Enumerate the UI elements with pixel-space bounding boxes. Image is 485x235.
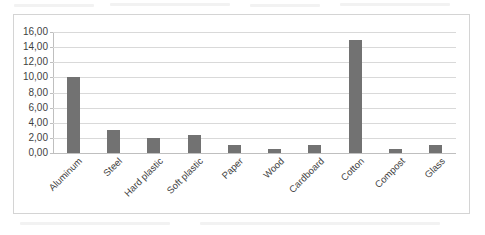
bleed-artifact (250, 4, 320, 7)
y-axis-tick-mark (50, 123, 53, 124)
y-axis-tick-mark (50, 47, 53, 48)
y-axis-tick-label: 12,00 (23, 57, 48, 67)
gridline (53, 62, 456, 63)
bar-chart-figure: 16,0014,0012,0010,008,006,004,002,000,00… (13, 14, 470, 214)
bar[interactable] (389, 149, 402, 153)
x-axis-category-label: Soft plastic (165, 156, 205, 196)
x-axis-category-label: Compost (373, 156, 407, 190)
x-axis-category-label: Hard plastic (122, 156, 164, 198)
x-axis-category-label: Aluminum (47, 156, 84, 193)
y-axis-tick-mark (50, 138, 53, 139)
bar[interactable] (268, 149, 281, 153)
y-axis-tick-label: 14,00 (23, 42, 48, 52)
bar[interactable] (107, 130, 120, 153)
bar[interactable] (188, 135, 201, 153)
bar[interactable] (228, 145, 241, 153)
y-axis-tick-label: 4,00 (29, 118, 48, 128)
y-axis-tick-label: 2,00 (29, 133, 48, 143)
x-axis-category-label: Wood (261, 156, 285, 180)
y-axis-tick-mark (50, 77, 53, 78)
gridline (53, 32, 456, 33)
bleed-artifact (200, 222, 440, 225)
y-axis-tick-label: 10,00 (23, 72, 48, 82)
bar[interactable] (308, 145, 321, 153)
bar[interactable] (429, 145, 442, 153)
gridline (53, 77, 456, 78)
gridline (53, 153, 456, 154)
bar[interactable] (349, 40, 362, 153)
bleed-artifact (340, 3, 450, 6)
x-axis-category-label: Paper (220, 156, 245, 181)
x-axis-category-label: Glass (423, 156, 447, 180)
y-axis-tick-mark (50, 32, 53, 33)
bleed-artifact (14, 4, 94, 7)
bar[interactable] (147, 138, 160, 153)
gridline (53, 108, 456, 109)
y-axis-tick-label: 6,00 (29, 103, 48, 113)
plot-area: 16,0014,0012,0010,008,006,004,002,000,00… (53, 32, 456, 153)
y-axis-tick-mark (50, 153, 53, 154)
gridline (53, 123, 456, 124)
x-axis-category-label: Steel (102, 156, 124, 178)
bar[interactable] (67, 77, 80, 153)
gridline (53, 93, 456, 94)
bleed-artifact (20, 222, 170, 225)
y-axis-tick-mark (50, 62, 53, 63)
y-axis-tick-label: 0,00 (29, 148, 48, 158)
y-axis-tick-label: 8,00 (29, 88, 48, 98)
gridline (53, 47, 456, 48)
x-axis-category-label: Cotton (339, 156, 366, 183)
y-axis-tick-mark (50, 93, 53, 94)
y-axis-tick-mark (50, 108, 53, 109)
x-axis-category-label: Cardboard (287, 156, 325, 194)
y-axis-tick-label: 16,00 (23, 27, 48, 37)
bleed-artifact (110, 3, 230, 6)
